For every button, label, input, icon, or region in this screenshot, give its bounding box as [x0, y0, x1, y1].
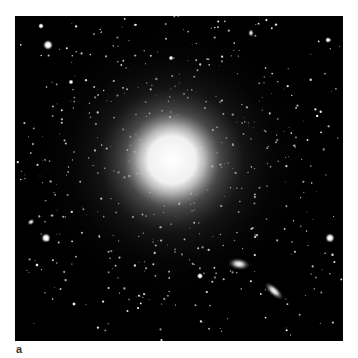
panel-label: a [16, 343, 22, 355]
companion-galaxy [248, 29, 254, 37]
starfield [15, 16, 343, 341]
galaxy-image [15, 16, 343, 341]
